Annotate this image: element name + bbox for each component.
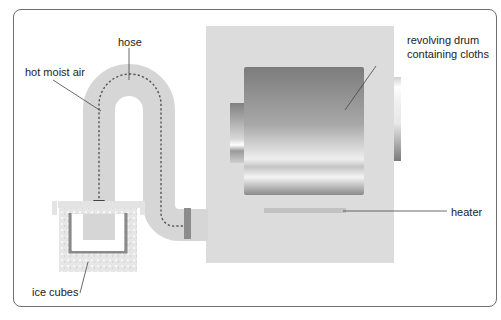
hose-end: [83, 214, 115, 240]
heater-element: [264, 208, 346, 213]
label-drum-line2: containing cloths: [407, 48, 489, 60]
label-hose: hose: [118, 36, 142, 48]
drum-left-flange: [230, 103, 245, 163]
label-ice-cubes: ice cubes: [32, 286, 78, 298]
lid-right-lip: [140, 201, 145, 215]
label-hot-moist-air: hot moist air: [25, 66, 85, 78]
lid-left-lip: [52, 201, 57, 215]
label-drum-line1: revolving drum: [407, 34, 479, 46]
drum-right-flange: [394, 77, 401, 161]
hose-connector: [184, 208, 191, 239]
label-heater: heater: [451, 206, 482, 218]
container-lid: [58, 201, 143, 208]
revolving-drum: [244, 67, 364, 195]
